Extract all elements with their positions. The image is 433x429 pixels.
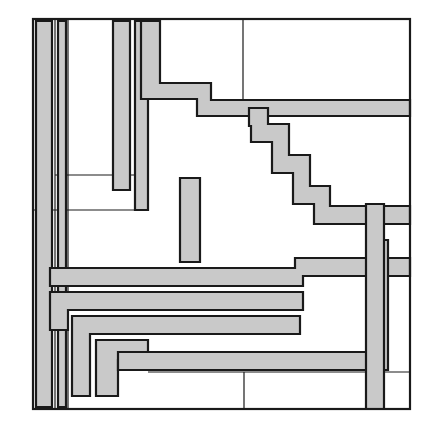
abstract-band-diagram: Tall vertical gray band along the left e…: [0, 0, 433, 429]
band-upper-left-tall: Tall narrow vertical band in the upper-l…: [113, 21, 130, 190]
figure-canvas: Tall vertical gray band along the left e…: [0, 0, 433, 429]
band-center-vertical-stub: Short vertical gray stub in the centre c…: [180, 178, 200, 262]
band-right-vertical: Vertical gray band on the right side cro…: [366, 204, 384, 409]
band-left-vertical-outer: Tall vertical gray band along the left e…: [36, 21, 52, 407]
band-left-vertical-inner: Second vertical gray band just right of …: [58, 21, 66, 407]
